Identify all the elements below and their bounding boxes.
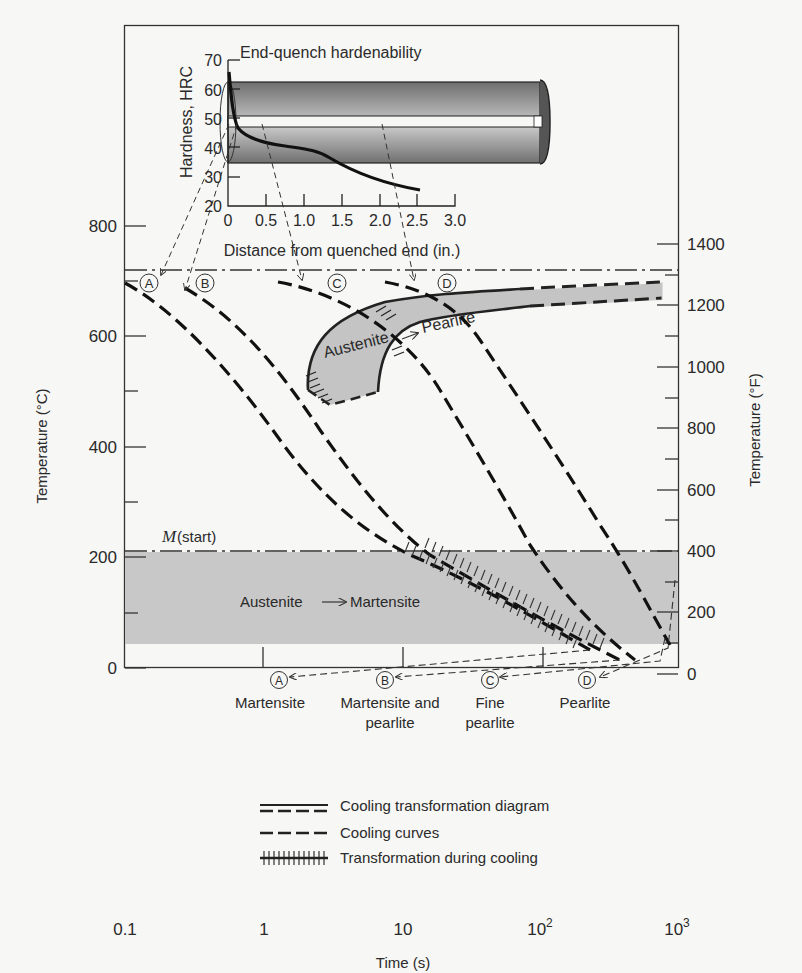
x-axis-label: Time (s) bbox=[376, 954, 430, 971]
inset-y-labels: 20 30 40 50 60 70 bbox=[204, 52, 222, 215]
product-labels: A Martensite B Martensite and pearlite C… bbox=[235, 672, 610, 732]
marker-b: B bbox=[201, 276, 210, 291]
jominy-bar-flat bbox=[228, 116, 544, 127]
svg-text:2.5: 2.5 bbox=[406, 212, 428, 229]
y-tick-left-0: 0 bbox=[108, 659, 117, 678]
x-tick-100: 102 bbox=[527, 916, 553, 939]
inset-x-label: Distance from quenched end (in.) bbox=[224, 242, 461, 259]
x-tick-10: 10 bbox=[394, 920, 413, 939]
y-tick-right-1000: 1000 bbox=[687, 358, 725, 377]
svg-text:0: 0 bbox=[224, 212, 233, 229]
inset-x-labels: 0 0.5 1.0 1.5 2.0 2.5 3.0 bbox=[224, 212, 467, 229]
ms-label: M bbox=[161, 527, 177, 546]
svg-text:50: 50 bbox=[204, 111, 222, 128]
y-tick-left-600: 600 bbox=[89, 327, 117, 346]
nose-arrow bbox=[402, 333, 418, 339]
y-tick-left-400: 400 bbox=[89, 438, 117, 457]
right-axis-labels: 0 200 400 600 800 1000 1200 1400 bbox=[687, 235, 725, 684]
svg-text:2.0: 2.0 bbox=[369, 212, 391, 229]
svg-text:40: 40 bbox=[204, 140, 222, 157]
y-tick-right-400: 400 bbox=[687, 542, 715, 561]
inset-title: End-quench hardenability bbox=[240, 44, 421, 61]
y-tick-right-1400: 1400 bbox=[687, 235, 725, 254]
inset-chart: 20 30 40 50 60 70 0 0.5 1.0 1.5 2.0 2.5 … bbox=[161, 44, 550, 290]
product-d-label: Pearlite bbox=[560, 694, 611, 711]
y-tick-right-800: 800 bbox=[687, 419, 715, 438]
product-b-label-2: pearlite bbox=[365, 714, 414, 731]
svg-text:C: C bbox=[486, 674, 495, 688]
x-tick-1: 1 bbox=[259, 920, 268, 939]
svg-text:1.0: 1.0 bbox=[293, 212, 315, 229]
svg-text:Cooling curves: Cooling curves bbox=[340, 824, 439, 841]
product-b-label-1: Martensite and bbox=[340, 694, 439, 711]
svg-text:A: A bbox=[275, 674, 283, 688]
legend-item-transformation: Transformation during cooling bbox=[260, 849, 538, 866]
inset-y-label: Hardness, HRC bbox=[178, 66, 195, 178]
x-axis-labels: 0.1 1 10 102 103 bbox=[113, 916, 690, 939]
svg-text:1.5: 1.5 bbox=[331, 212, 353, 229]
svg-text:Transformation during cooling: Transformation during cooling bbox=[340, 849, 538, 866]
svg-text:3.0: 3.0 bbox=[444, 212, 466, 229]
y-axis-label-left: Temperature (°C) bbox=[33, 388, 50, 503]
y-tick-right-600: 600 bbox=[687, 481, 715, 500]
svg-text:Cooling transformation diagram: Cooling transformation diagram bbox=[340, 797, 549, 814]
ms-label-suffix: (start) bbox=[177, 528, 216, 545]
product-a-label: Martensite bbox=[235, 694, 305, 711]
product-c-label-1: Fine bbox=[475, 694, 504, 711]
legend: Cooling transformation diagram Cooling c… bbox=[260, 797, 549, 866]
marker-d: D bbox=[442, 276, 451, 291]
y-tick-left-200: 200 bbox=[89, 548, 117, 567]
x-tick-1000: 103 bbox=[664, 916, 690, 939]
left-axis-labels: 0 200 400 600 800 bbox=[89, 217, 117, 678]
band-label-martensite: Martensite bbox=[350, 593, 420, 610]
svg-text:60: 60 bbox=[204, 82, 222, 99]
svg-text:30: 30 bbox=[204, 169, 222, 186]
y-tick-right-200: 200 bbox=[687, 603, 715, 622]
y-tick-right-0: 0 bbox=[687, 665, 696, 684]
x-axis-ticks bbox=[263, 647, 543, 667]
x-tick-0-1: 0.1 bbox=[113, 920, 137, 939]
legend-item-cooling-curves: Cooling curves bbox=[260, 824, 439, 841]
cooling-transformation-chart: 0 200 400 600 800 Temperature (°C) 0 200… bbox=[0, 0, 802, 973]
y-axis-label-right: Temperature (°F) bbox=[746, 373, 763, 487]
marker-a: A bbox=[145, 276, 154, 291]
svg-text:D: D bbox=[583, 674, 592, 688]
legend-item-ctd: Cooling transformation diagram bbox=[260, 797, 549, 814]
svg-text:70: 70 bbox=[204, 52, 222, 69]
svg-text:B: B bbox=[381, 674, 389, 688]
marker-c: C bbox=[332, 276, 341, 291]
y-tick-left-800: 800 bbox=[89, 217, 117, 236]
svg-text:0.5: 0.5 bbox=[255, 212, 277, 229]
product-c-label-2: pearlite bbox=[465, 714, 514, 731]
y-tick-right-1200: 1200 bbox=[687, 296, 725, 315]
band-label-austenite: Austenite bbox=[240, 593, 303, 610]
